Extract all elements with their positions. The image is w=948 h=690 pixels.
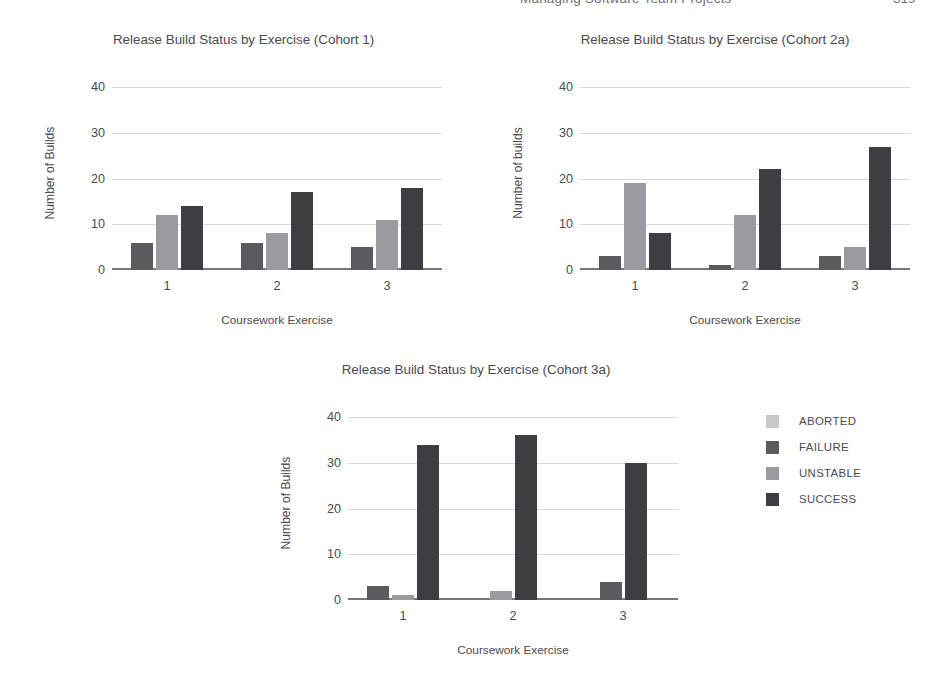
x-axis-tick-label: 1 <box>399 608 406 623</box>
x-axis-title: Coursework Exercise <box>348 643 678 657</box>
y-axis-tick-label: 30 <box>327 456 341 470</box>
y-axis-tick-label: 20 <box>327 502 341 516</box>
bar-success-ex2 <box>515 435 537 600</box>
y-axis-title: Number of Builds <box>279 407 293 599</box>
bar-unstable-ex2 <box>490 591 512 600</box>
bar-unstable-ex3 <box>844 247 866 270</box>
gridline <box>580 87 910 88</box>
bar-unstable-ex2 <box>734 215 756 270</box>
y-axis-tick-label: 0 <box>98 263 105 277</box>
x-axis-tick-label: 2 <box>509 608 516 623</box>
bar-success-ex2 <box>759 169 781 270</box>
legend-item-success[interactable]: SUCCESS <box>766 486 861 512</box>
y-axis-title: Number of builds <box>511 77 525 269</box>
x-axis-tick-label: 3 <box>383 278 390 293</box>
bar-unstable-ex1 <box>624 183 646 270</box>
legend-swatch-icon <box>766 467 779 480</box>
chart-panel-cohort2a: Release Build Status by Exercise (Cohort… <box>490 32 940 334</box>
x-axis-tick-label: 2 <box>741 278 748 293</box>
bar-failure-ex3 <box>819 256 841 270</box>
page-running-head: Managing Software Team Projects 319 <box>0 0 948 14</box>
y-axis-tick-label: 30 <box>559 126 573 140</box>
x-axis-title: Coursework Exercise <box>112 313 442 327</box>
y-axis-tick-label: 10 <box>559 217 573 231</box>
bar-success-ex3 <box>869 147 891 270</box>
bar-unstable-ex2 <box>266 233 288 270</box>
legend-label: ABORTED <box>799 415 856 427</box>
legend-swatch-icon <box>766 441 779 454</box>
x-axis-title: Coursework Exercise <box>580 313 910 327</box>
chart-title: Release Build Status by Exercise (Cohort… <box>16 32 471 47</box>
legend-label: SUCCESS <box>799 493 857 505</box>
bar-success-ex1 <box>649 233 671 270</box>
chart-legend: ABORTEDFAILUREUNSTABLESUCCESS <box>766 408 861 512</box>
legend-item-aborted[interactable]: ABORTED <box>766 408 861 434</box>
bar-failure-ex1 <box>599 256 621 270</box>
bar-success-ex2 <box>291 192 313 270</box>
y-axis-title: Number of Builds <box>43 77 57 269</box>
gridline <box>580 133 910 134</box>
y-axis-tick-label: 30 <box>91 126 105 140</box>
y-axis-tick-label: 0 <box>566 263 573 277</box>
y-axis-tick-label: 0 <box>334 593 341 607</box>
gridline <box>112 179 442 180</box>
bar-failure-ex1 <box>367 586 389 600</box>
page-number: 319 <box>893 0 916 6</box>
y-axis-tick-label: 40 <box>327 410 341 424</box>
y-axis-tick-label: 10 <box>327 547 341 561</box>
bar-success-ex1 <box>181 206 203 270</box>
bar-unstable-ex1 <box>392 595 414 600</box>
x-axis-tick-label: 3 <box>851 278 858 293</box>
x-axis-tick-label: 1 <box>163 278 170 293</box>
y-axis-tick-label: 40 <box>91 80 105 94</box>
gridline <box>112 133 442 134</box>
chart-panel-cohort1: Release Build Status by Exercise (Cohort… <box>16 32 471 334</box>
bar-success-ex3 <box>401 188 423 270</box>
gridline <box>112 87 442 88</box>
bar-unstable-ex1 <box>156 215 178 270</box>
legend-swatch-icon <box>766 493 779 506</box>
plot-area: 010203040123 <box>112 78 442 270</box>
gridline <box>348 417 678 418</box>
legend-item-unstable[interactable]: UNSTABLE <box>766 460 861 486</box>
legend-label: UNSTABLE <box>799 467 861 479</box>
bar-unstable-ex3 <box>376 220 398 270</box>
bar-success-ex1 <box>417 445 439 600</box>
chart-title: Release Build Status by Exercise (Cohort… <box>252 362 700 377</box>
bar-failure-ex3 <box>600 582 622 600</box>
bar-failure-ex3 <box>351 247 373 270</box>
gridline <box>580 179 910 180</box>
legend-label: FAILURE <box>799 441 849 453</box>
y-axis-tick-label: 40 <box>559 80 573 94</box>
bar-failure-ex2 <box>709 265 731 270</box>
chart-title: Release Build Status by Exercise (Cohort… <box>490 32 940 47</box>
y-axis-tick-label: 10 <box>91 217 105 231</box>
plot-area: 010203040123 <box>348 408 678 600</box>
x-axis-tick-label: 1 <box>631 278 638 293</box>
chart-panel-cohort3a: Release Build Status by Exercise (Cohort… <box>252 362 700 664</box>
x-axis-tick-label: 3 <box>619 608 626 623</box>
running-head-text: Managing Software Team Projects <box>520 0 732 6</box>
bar-success-ex3 <box>625 463 647 600</box>
y-axis-tick-label: 20 <box>559 172 573 186</box>
x-axis-tick-label: 2 <box>273 278 280 293</box>
y-axis-tick-label: 20 <box>91 172 105 186</box>
bar-failure-ex1 <box>131 243 153 270</box>
plot-area: 010203040123 <box>580 78 910 270</box>
legend-swatch-icon <box>766 415 779 428</box>
legend-item-failure[interactable]: FAILURE <box>766 434 861 460</box>
bar-failure-ex2 <box>241 243 263 270</box>
